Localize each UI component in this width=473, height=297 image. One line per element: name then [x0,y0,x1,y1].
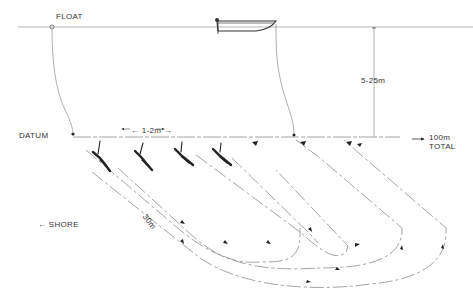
shore-label: ← SHORE [38,221,79,229]
diver-2-icon [135,143,152,170]
swim-path-5 [232,158,318,243]
diver-4-icon [213,143,231,165]
float-line [52,29,73,132]
diver-3-icon [175,142,193,165]
datum-label: DATUM [19,132,48,140]
swim-paths [86,140,446,287]
datum-marker-icon [71,132,74,135]
direction-arrows [180,141,444,283]
transect-diagram [0,0,473,297]
depth-range-label: 5-25m [361,77,385,85]
diver-icons [93,141,231,171]
diver-spacing-label: ← 1-2m → [131,127,172,135]
float-label: FLOAT [56,13,83,21]
boat-icon [215,18,276,34]
total-length-label: 100m [429,134,450,142]
total-label: TOTAL [429,143,456,151]
diver-1-icon [93,141,110,171]
boat-line [276,24,294,134]
anchor-marker-icon [293,134,296,137]
swim-path-4 [196,155,348,256]
